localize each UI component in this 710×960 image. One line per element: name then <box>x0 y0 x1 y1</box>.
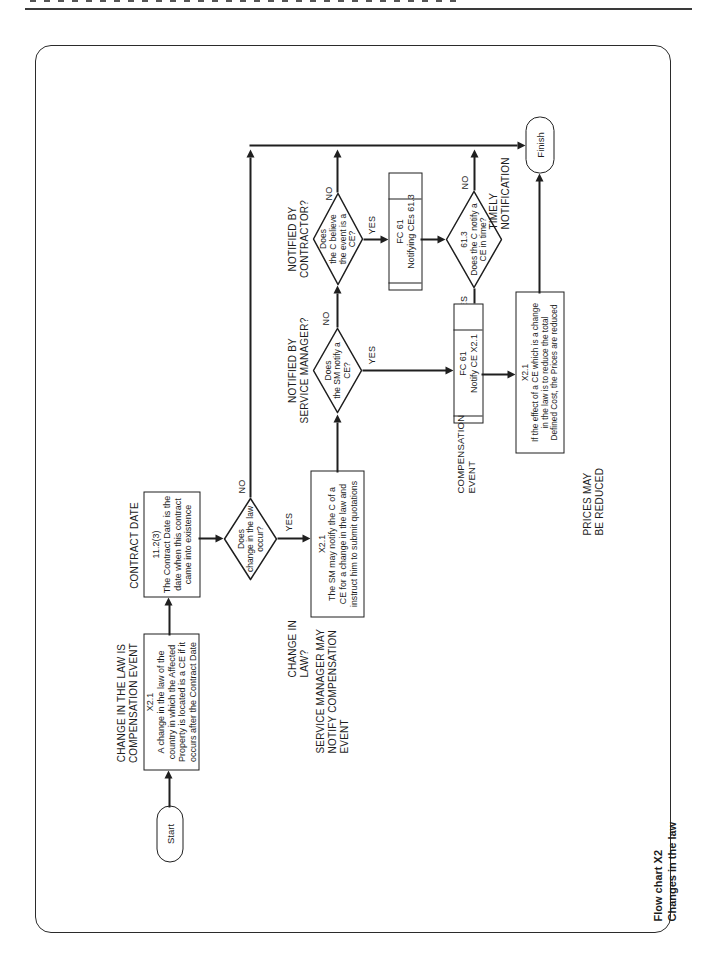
caption-notified-by-contractor: NOTIFIED BY CONTRACTOR? <box>286 192 310 285</box>
flow-line <box>363 239 381 241</box>
process-prices-reduced: X2.1 If the effect of a CE which is a ch… <box>515 291 564 453</box>
decision-sm-notify-text: Does the SM notify a CE? <box>312 327 362 413</box>
caption-contract-date: CONTRACT DATE <box>128 493 140 597</box>
subroutine-bar <box>453 329 482 330</box>
yes-label: YES <box>366 215 376 234</box>
flow-line <box>481 374 508 376</box>
subroutine-bar <box>388 282 421 283</box>
caption-notified-by-sm: NOTIFIED BY SERVICE MANAGER? <box>286 314 310 426</box>
caption-change-in-law-event: CHANGE IN THE LAW IS COMPENSATION EVENT <box>115 635 139 770</box>
flow-line <box>336 422 338 472</box>
arrowhead-right <box>164 770 172 778</box>
arrowhead-right <box>246 149 254 157</box>
flow-line <box>198 538 217 540</box>
flow-line <box>420 239 438 241</box>
flow-line <box>168 776 170 807</box>
arrowhead-down <box>437 236 445 244</box>
process-sm-may-notify: X2.1 The SM may notify the C of a CE for… <box>310 470 364 617</box>
yes-label: YES <box>366 345 376 364</box>
arrowhead-right <box>535 173 543 181</box>
cropped-header-text-remnant <box>30 0 460 2</box>
no-label: NO <box>320 311 330 325</box>
no-collector-line <box>249 157 251 497</box>
caption-change-in-law: CHANGE IN LAW? <box>286 620 310 677</box>
arrowhead-right <box>164 597 172 605</box>
flow-line <box>277 538 303 540</box>
no-label: NO <box>236 479 246 493</box>
no-label: NO <box>459 175 469 189</box>
header-rule <box>25 8 692 10</box>
scanned-page: { "flowchart": { "start": { "label": "St… <box>0 0 710 960</box>
flowchart-canvas: Start CHANGE IN THE LAW IS COMPENSATION … <box>35 45 672 935</box>
arrowhead-down <box>507 371 515 379</box>
arrowhead-down <box>517 142 525 150</box>
arrowhead-down <box>215 535 223 543</box>
flow-line <box>538 180 540 293</box>
yes-label: YES <box>283 512 293 531</box>
arrowhead-right <box>470 149 478 157</box>
start-terminator: Start <box>156 805 183 862</box>
decision-change-occur: Does change in the law occur? <box>223 497 277 580</box>
arrowhead-down <box>302 535 310 543</box>
no-label: NO <box>323 186 333 200</box>
decision-contractor-believe-text: Does the C believe the event is a CE? <box>312 192 363 285</box>
no-collector-rail <box>249 145 517 147</box>
arrowhead-down <box>380 236 388 244</box>
caption-compensation-event: COMPENSATION EVENT <box>454 414 477 493</box>
process-change-in-law-event: X2.1 A change in the law of the country … <box>143 633 199 770</box>
finish-terminator: Finish <box>525 116 554 173</box>
flow-line <box>168 603 170 635</box>
flow-line <box>336 293 338 327</box>
process-contract-date: 11.2(3) The Contract Date is the date wh… <box>143 491 200 597</box>
flowchart-title: Flow chart X2 Changes in the law <box>651 821 679 921</box>
arrowhead-right <box>333 285 341 293</box>
flow-line <box>336 156 338 192</box>
caption-prices-reduced: PRICES MAY BE REDUCED <box>581 467 605 535</box>
arrowhead-down <box>445 367 453 375</box>
caption-timely-notification: TIMELY NOTIFICATION <box>487 157 511 229</box>
subroutine-bar <box>388 198 421 199</box>
arrowhead-right <box>333 149 341 157</box>
arrowhead-right <box>333 414 341 422</box>
flow-line <box>362 370 446 372</box>
decision-contractor-believe: Does the C believe the event is a CE? <box>312 192 363 285</box>
flow-line <box>473 156 475 190</box>
subroutine-notifying-ces: FC 61 Notifying CEs 61.3 <box>388 172 422 290</box>
decision-sm-notify: Does the SM notify a CE? <box>312 327 362 413</box>
subroutine-notify-ce: FC 61 Notify CE X2.1 <box>453 303 483 423</box>
decision-change-occur-text: Does change in the law occur? <box>223 497 277 580</box>
caption-sm-may-notify: SERVICE MANAGER MAY NOTIFY COMPENSATION … <box>314 628 350 753</box>
